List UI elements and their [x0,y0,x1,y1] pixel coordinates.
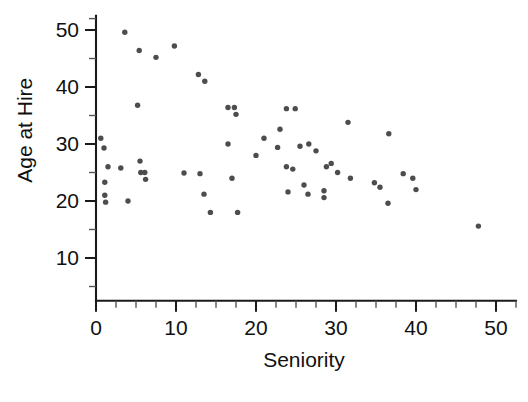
data-point [321,188,326,193]
data-point [476,223,481,228]
data-point [118,165,123,170]
data-point [233,112,238,117]
y-tick-label: 20 [56,189,79,212]
data-point [328,161,333,166]
data-point [290,166,295,171]
data-point [136,48,141,53]
data-point [103,199,108,204]
x-tick-label: 10 [164,316,187,339]
data-point [345,120,350,125]
data-point [284,106,289,111]
plot-area: 102030405001020304050SeniorityAge at Hir… [0,0,528,402]
data-point [261,136,266,141]
data-point [196,72,201,77]
data-point [229,175,234,180]
data-point-group [98,30,481,229]
data-point [377,185,382,190]
data-point [143,177,148,182]
data-point [324,164,329,169]
data-point [232,105,237,110]
data-point [275,145,280,150]
y-tick-label: 30 [56,132,79,155]
data-point [98,136,103,141]
data-point [372,180,377,185]
data-point [277,126,282,131]
data-point [125,198,130,203]
x-tick-label: 50 [484,316,507,339]
data-point [253,153,258,158]
y-tick-label: 50 [56,18,79,41]
data-point [225,105,230,110]
data-point [105,164,110,169]
data-point [202,79,207,84]
data-point [284,164,289,169]
x-tick-label: 30 [324,316,347,339]
data-point [292,106,297,111]
data-point [385,201,390,206]
y-axis-title: Age at Hire [13,78,36,183]
data-point [410,175,415,180]
data-point [122,30,127,35]
data-point [135,103,140,108]
data-point [321,195,326,200]
x-tick-label: 40 [404,316,427,339]
data-point [297,144,302,149]
data-point [400,171,405,176]
data-point [301,182,306,187]
data-point [306,141,311,146]
data-point [335,170,340,175]
x-tick-label: 20 [244,316,267,339]
data-point [172,43,177,48]
data-point [101,145,106,150]
data-point [208,210,213,215]
data-point [225,141,230,146]
data-point [181,170,186,175]
data-point [285,189,290,194]
data-point [201,191,206,196]
data-point [413,187,418,192]
x-tick-label: 0 [90,316,102,339]
data-point [348,175,353,180]
data-point [137,158,142,163]
x-axis-title: Seniority [263,348,345,371]
data-point [313,148,318,153]
data-point [153,55,158,60]
data-point [102,193,107,198]
y-tick-label: 40 [56,75,79,98]
y-tick-label: 10 [56,246,79,269]
scatter-chart: 102030405001020304050SeniorityAge at Hir… [0,0,528,402]
data-point [102,179,107,184]
data-point [142,170,147,175]
data-point [386,131,391,136]
data-point [305,191,310,196]
data-point [235,210,240,215]
data-point [197,171,202,176]
